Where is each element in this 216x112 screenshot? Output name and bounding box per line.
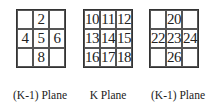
grid-plane-k: 10 11 12 13 14 15 16 17 18 bbox=[83, 9, 133, 68]
cell: 5 bbox=[33, 29, 49, 48]
cell bbox=[49, 48, 65, 67]
grid-plane-k-minus-1-left: 2 4 5 6 8 bbox=[16, 9, 66, 68]
cell: 8 bbox=[33, 48, 49, 67]
cell: 17 bbox=[100, 48, 116, 67]
cell: 20 bbox=[166, 10, 182, 29]
cell bbox=[182, 10, 198, 29]
cell bbox=[150, 10, 166, 29]
cell bbox=[150, 48, 166, 67]
cell bbox=[17, 10, 33, 29]
cell bbox=[182, 48, 198, 67]
cell: 2 bbox=[33, 10, 49, 29]
cell: 15 bbox=[116, 29, 132, 48]
grid-plane-k-minus-1-right: 20 22 23 24 26 bbox=[149, 9, 199, 68]
cell: 11 bbox=[100, 10, 116, 29]
cell: 10 bbox=[84, 10, 100, 29]
cell: 12 bbox=[116, 10, 132, 29]
cell: 14 bbox=[100, 29, 116, 48]
plane-label-left: (K-1) Plane bbox=[4, 89, 76, 101]
cell: 23 bbox=[166, 29, 182, 48]
cell bbox=[17, 48, 33, 67]
cell: 24 bbox=[182, 29, 198, 48]
cell: 22 bbox=[150, 29, 166, 48]
cell: 13 bbox=[84, 29, 100, 48]
cell bbox=[49, 10, 65, 29]
cell: 6 bbox=[49, 29, 65, 48]
cell: 18 bbox=[116, 48, 132, 67]
cell: 16 bbox=[84, 48, 100, 67]
plane-label-right: (K-1) Plane bbox=[142, 89, 214, 101]
cell: 26 bbox=[166, 48, 182, 67]
cell: 4 bbox=[17, 29, 33, 48]
plane-label-middle: K Plane bbox=[72, 89, 144, 101]
